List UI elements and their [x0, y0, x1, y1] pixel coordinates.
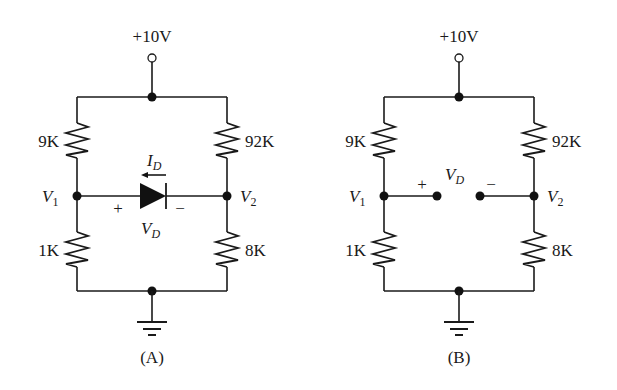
diode-voltage-label: VD — [141, 219, 160, 241]
plus-label-b: + — [417, 175, 427, 194]
resistor-92k-a — [216, 123, 238, 158]
arrow-left-icon — [141, 172, 148, 178]
resistor-1k-a — [66, 232, 88, 267]
caption-a: (A) — [140, 348, 164, 367]
node-v1-a — [73, 192, 82, 201]
ground-icon — [444, 322, 474, 335]
label-8k-b: 8K — [552, 241, 574, 260]
node-label-v1-b: V1 — [349, 187, 365, 209]
supply-terminal-b — [455, 54, 463, 62]
minus-label-b: − — [486, 175, 496, 194]
open-voltage-label: VD — [445, 165, 464, 187]
open-terminal-plus — [433, 192, 442, 201]
node-v2-a — [223, 192, 232, 201]
circuit-a: +10V ID + − VD 9K 92K — [38, 27, 275, 367]
label-92k-a: 92K — [245, 132, 275, 151]
supply-label-b: +10V — [440, 27, 480, 46]
label-9k-a: 9K — [38, 132, 60, 151]
node-v1-b — [380, 192, 389, 201]
resistor-8k-a — [216, 232, 238, 267]
node-v2-b — [530, 192, 539, 201]
node-label-v1-a: V1 — [42, 187, 58, 209]
label-1k-b: 1K — [345, 241, 367, 260]
node-label-v2-a: V2 — [240, 187, 256, 209]
diode-icon — [140, 183, 166, 209]
node-label-v2-b: V2 — [547, 187, 563, 209]
resistor-9k-b — [373, 123, 395, 158]
supply-terminal-a — [148, 54, 156, 62]
supply-label-a: +10V — [133, 27, 173, 46]
plus-label-a: + — [113, 199, 123, 218]
top-junction-b — [455, 93, 464, 102]
resistor-8k-b — [523, 232, 545, 267]
open-terminal-minus — [476, 192, 485, 201]
caption-b: (B) — [448, 348, 471, 367]
circuit-b: +10V + − VD 9K 92K 1K 8K V1 V2 — [345, 27, 582, 367]
minus-label-a: − — [175, 199, 185, 218]
resistor-9k-a — [66, 123, 88, 158]
label-1k-a: 1K — [38, 241, 60, 260]
top-junction-a — [148, 93, 157, 102]
label-92k-b: 92K — [552, 132, 582, 151]
ground-icon — [137, 322, 167, 335]
label-9k-b: 9K — [345, 132, 367, 151]
resistor-92k-b — [523, 123, 545, 158]
current-label: ID — [146, 151, 162, 173]
label-8k-a: 8K — [245, 241, 267, 260]
resistor-1k-b — [373, 232, 395, 267]
